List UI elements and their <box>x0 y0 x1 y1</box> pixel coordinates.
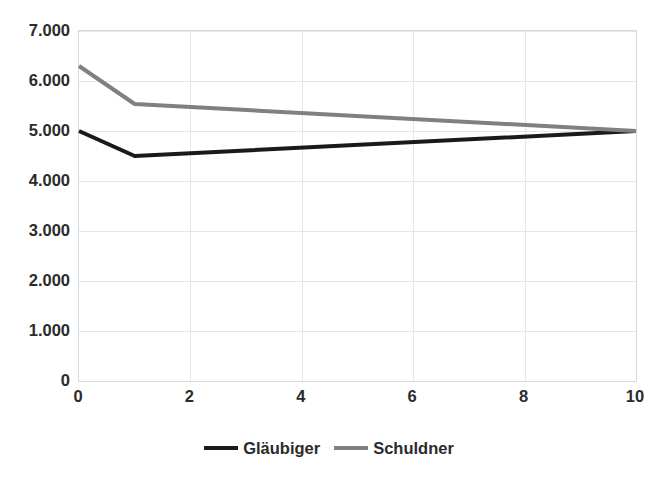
y-axis-tick-label: 0 <box>4 372 70 389</box>
y-axis-tick-label: 3.000 <box>4 222 70 239</box>
chart-legend: GläubigerSchuldner <box>0 440 658 457</box>
legend-swatch-icon <box>334 446 368 450</box>
legend-entry[interactable]: Gläubiger <box>204 440 320 457</box>
x-axis-tick-label: 0 <box>73 388 82 405</box>
y-axis-tick-label: 5.000 <box>4 122 70 139</box>
x-axis-tick-label: 6 <box>408 388 417 405</box>
legend-label: Gläubiger <box>243 440 320 457</box>
y-axis-tick-label: 1.000 <box>4 322 70 339</box>
x-axis-tick-label: 10 <box>626 388 644 405</box>
series-line-schuldner <box>79 66 636 131</box>
legend-entry[interactable]: Schuldner <box>334 440 454 457</box>
y-axis-tick-label: 6.000 <box>4 72 70 89</box>
y-axis-tick-labels: 01.0002.0003.0004.0005.0006.0007.000 <box>0 0 70 478</box>
y-axis-tick-label: 7.000 <box>4 22 70 39</box>
x-axis-tick-label: 2 <box>185 388 194 405</box>
series-line-gläubiger <box>79 131 636 156</box>
series-lines <box>79 31 636 381</box>
line-chart: 01.0002.0003.0004.0005.0006.0007.000 024… <box>0 0 658 478</box>
y-axis-tick-label: 2.000 <box>4 272 70 289</box>
x-axis-tick-label: 8 <box>519 388 528 405</box>
plot-area <box>78 30 637 382</box>
y-axis-tick-label: 4.000 <box>4 172 70 189</box>
x-axis-tick-label: 4 <box>296 388 305 405</box>
legend-label: Schuldner <box>373 440 454 457</box>
legend-swatch-icon <box>204 446 238 450</box>
